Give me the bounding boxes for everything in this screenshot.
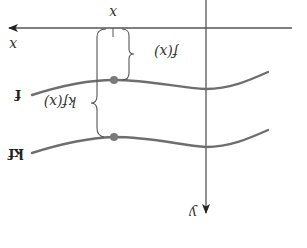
curve-label-f: f [14,87,21,103]
point-kf [110,133,118,141]
y-axis-label: y [188,205,198,221]
brace-label-f-of-x: f(x) [154,44,179,60]
curve-label-kf: kf [7,146,24,162]
curve-f [32,72,268,95]
curve-kf [32,130,268,153]
point-f [110,76,118,84]
brace-f-of-x [122,29,134,80]
x-axis-label: x [9,37,17,53]
x-tick-label: x [109,5,117,21]
brace-label-kf-of-x: kf(x) [44,94,76,110]
function-scaling-diagram: x x y f(x) kf(x) f kf [0,0,307,248]
brace-kf-of-x [91,29,106,137]
